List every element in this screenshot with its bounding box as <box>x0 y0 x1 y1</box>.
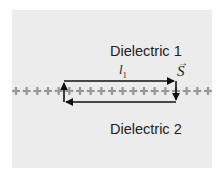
interface-diagram <box>0 0 223 175</box>
vector-arrow-icon: → <box>178 57 188 68</box>
dielectric-1-label: Dielectric 1 <box>110 43 182 59</box>
length-label: l1 <box>119 62 127 80</box>
dielectric-2-label: Dielectric 2 <box>110 121 182 137</box>
surface-charge-row <box>12 87 212 95</box>
surface-vector-label: →S <box>177 63 185 80</box>
